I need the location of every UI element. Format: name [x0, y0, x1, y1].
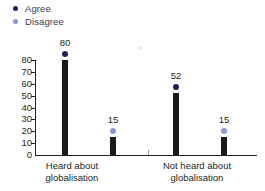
value-label-heard-agree: 80	[50, 38, 80, 48]
plot-area: 01020304050607080 80155215 Heard about g…	[0, 0, 265, 191]
category-label-not-heard-line1: Not heard about	[142, 160, 252, 172]
marker-dot-heard-agree	[62, 51, 68, 57]
category-label-heard: Heard about globalisation	[17, 160, 127, 184]
bar-heard-agree[interactable]	[62, 60, 68, 155]
y-axis-tick-label: 0	[10, 150, 32, 160]
y-axis-tick-label: 60	[10, 79, 32, 89]
category-label-not-heard: Not heard about globalisation	[142, 160, 252, 184]
value-label-notheard-disagree: 15	[209, 115, 239, 125]
group-separator-tick	[148, 150, 149, 155]
y-axis-tick-label: 20	[10, 126, 32, 136]
y-axis-tick-label: 10	[10, 138, 32, 148]
x-axis-line	[35, 155, 257, 156]
value-label-heard-disagree: 15	[98, 115, 128, 125]
y-axis-tick-label: 70	[10, 67, 32, 77]
category-label-not-heard-line2: globalisation	[142, 172, 252, 184]
category-label-heard-line1: Heard about	[17, 160, 127, 172]
y-axis-line	[35, 60, 36, 156]
bar-notheard-agree[interactable]	[173, 93, 179, 155]
bar-heard-disagree[interactable]	[110, 137, 116, 155]
image-speck-artifact	[140, 47, 142, 49]
y-axis-tick-label: 80	[10, 55, 32, 65]
y-axis-tick-label: 40	[10, 103, 32, 113]
chart-container: Agree Disagree 01020304050607080 8015521…	[0, 0, 265, 191]
y-axis-tick-label: 30	[10, 114, 32, 124]
marker-dot-heard-disagree	[110, 128, 116, 134]
y-axis-tick-label: 50	[10, 91, 32, 101]
value-label-notheard-agree: 52	[161, 71, 191, 81]
category-label-heard-line2: globalisation	[17, 172, 127, 184]
marker-dot-notheard-disagree	[221, 128, 227, 134]
bar-notheard-disagree[interactable]	[221, 137, 227, 155]
marker-dot-notheard-agree	[173, 84, 179, 90]
